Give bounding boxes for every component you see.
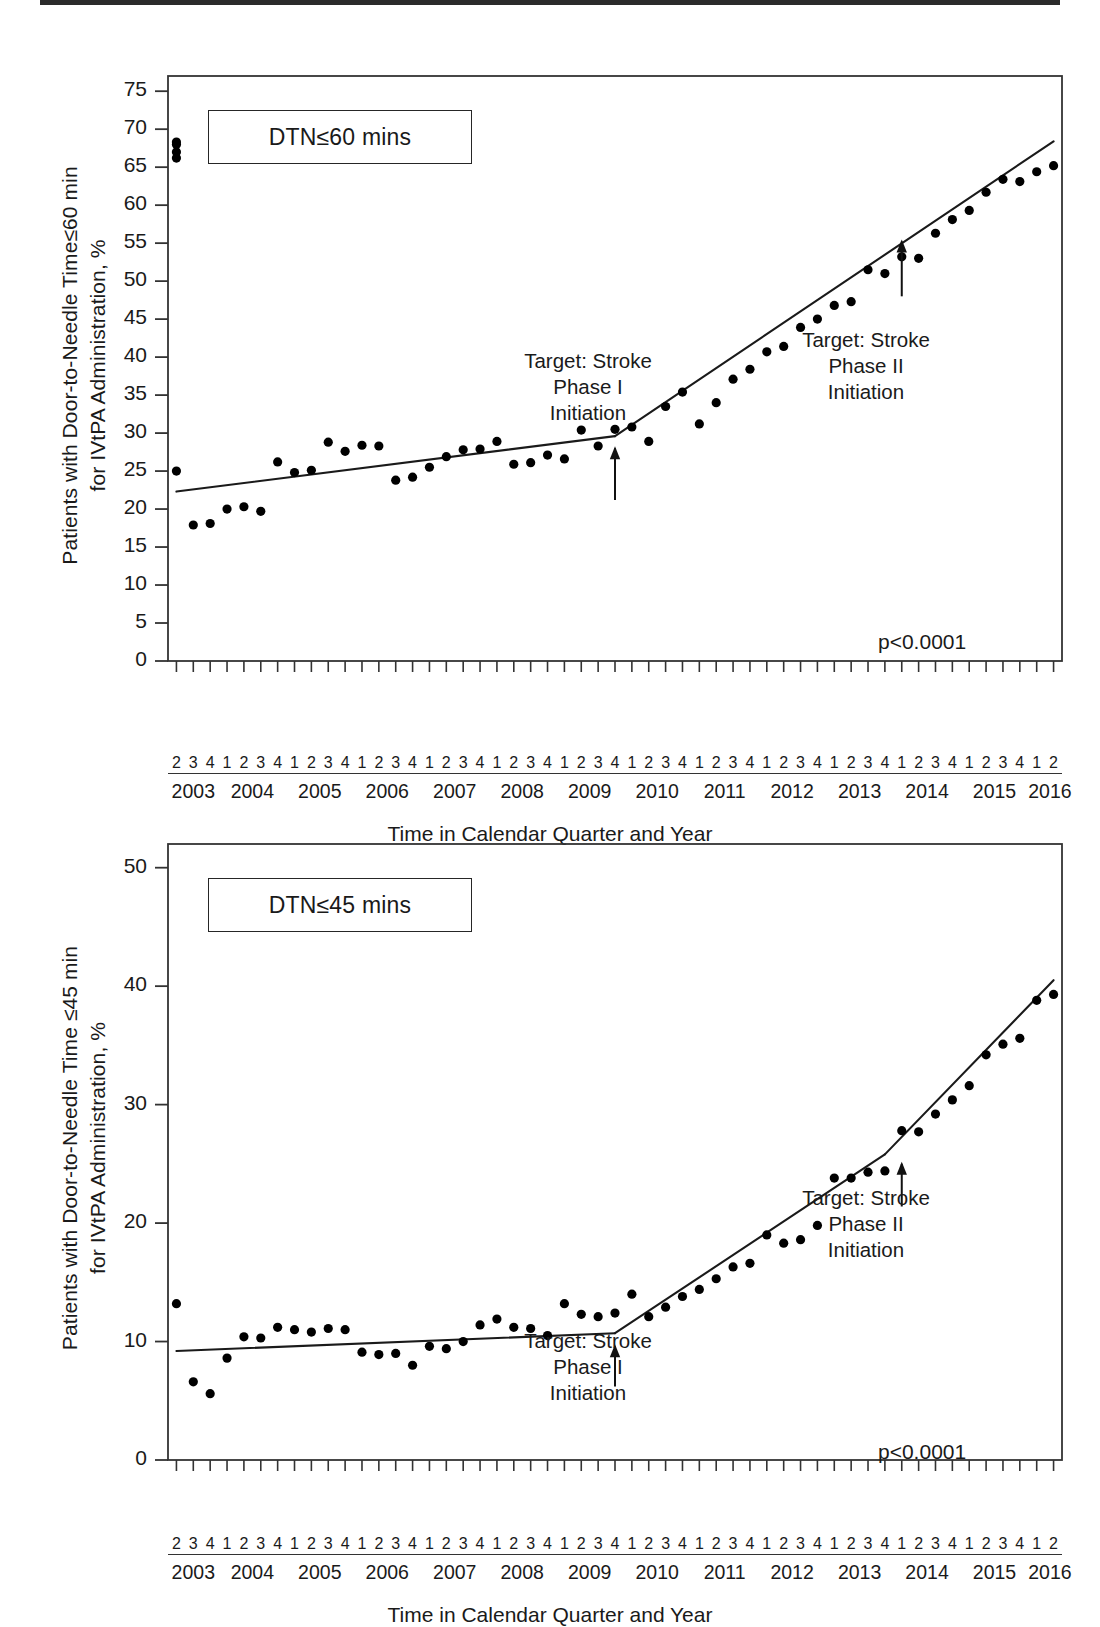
y-tick-label: 50 <box>89 854 147 878</box>
annotation-line: Initiation <box>716 379 1016 405</box>
p-value-label-top: p<0.0001 <box>878 630 966 654</box>
x-axis-quarter-label: 2 <box>168 754 185 772</box>
x-axis-quarter-label: 4 <box>876 754 893 772</box>
x-axis-quarter-label: 2 <box>168 1535 185 1553</box>
x-axis-quarter-label: 1 <box>893 1535 910 1553</box>
x-axis-quarter-label: 2 <box>640 754 657 772</box>
x-axis-year-label: 2009 <box>556 1561 623 1584</box>
x-axis-quarter-label: 3 <box>927 1535 944 1553</box>
x-axis-quarter-label: 2 <box>843 1535 860 1553</box>
x-axis-quarter-label: 1 <box>758 754 775 772</box>
x-axis-quarter-label: 3 <box>657 1535 674 1553</box>
x-axis-year-label: 2008 <box>488 780 555 803</box>
y-tick-label: 20 <box>89 1209 147 1233</box>
x-axis-quarter-label: 3 <box>252 754 269 772</box>
x-axis-quarter-group: 234 <box>168 1535 219 1555</box>
x-axis-year-label: 2009 <box>556 780 623 803</box>
x-axis-quarter-label: 1 <box>758 1535 775 1553</box>
y-tick-label: 15 <box>89 533 147 557</box>
x-axis-quarter-group: 1234 <box>691 754 758 774</box>
x-axis-year-label: 2006 <box>354 1561 421 1584</box>
x-axis-quarter-label: 2 <box>573 1535 590 1553</box>
x-axis-quarter-label: 2 <box>978 754 995 772</box>
x-axis-quarter-label: 3 <box>252 1535 269 1553</box>
annotation-line: Phase I <box>438 374 738 400</box>
x-axis-quarter-group: 1234 <box>286 754 353 774</box>
x-axis-quarter-label: 1 <box>556 754 573 772</box>
x-axis-year-label: 2014 <box>893 780 960 803</box>
x-axis-quarter-label: 3 <box>995 754 1012 772</box>
x-axis-year-label: 2016 <box>1028 1561 1062 1584</box>
y-tick-label: 35 <box>89 381 147 405</box>
x-axis-quarter-label: 1 <box>1028 754 1045 772</box>
annotation-target-stroke-phase-i: Target: StrokePhase IInitiation <box>438 1328 738 1407</box>
y-tick-label: 65 <box>89 153 147 177</box>
x-axis-quarter-group: 1234 <box>691 1535 758 1555</box>
x-axis-quarter-label: 2 <box>708 754 725 772</box>
y-tick-label: 70 <box>89 115 147 139</box>
x-axis-quarter-group: 1234 <box>961 1535 1028 1555</box>
x-axis-quarter-group: 1234 <box>961 754 1028 774</box>
x-axis-quarter-label: 3 <box>455 754 472 772</box>
x-axis-quarter-label: 1 <box>961 1535 978 1553</box>
annotation-line: Phase II <box>716 1211 1016 1237</box>
x-axis-quarter-label: 1 <box>1028 1535 1045 1553</box>
x-axis-quarter-label: 3 <box>657 754 674 772</box>
x-axis-quarter-label: 2 <box>438 754 455 772</box>
x-axis-quarter-label: 3 <box>387 754 404 772</box>
x-axis-quarter-label: 4 <box>472 1535 489 1553</box>
x-axis-quarter-label: 2 <box>303 754 320 772</box>
x-axis-quarter-label: 1 <box>421 1535 438 1553</box>
x-axis-quarter-group: 1234 <box>758 754 825 774</box>
x-axis-quarter-group: 234 <box>168 754 219 774</box>
x-axis-quarter-label: 1 <box>623 754 640 772</box>
x-axis-year-label: 2012 <box>758 1561 825 1584</box>
x-axis-quarter-label: 4 <box>944 1535 961 1553</box>
x-axis-quarter-label: 3 <box>590 754 607 772</box>
x-axis-year-label: 2012 <box>758 780 825 803</box>
x-axis-quarter-label: 1 <box>961 754 978 772</box>
x-axis-year-label: 2010 <box>623 1561 690 1584</box>
x-axis-year-label: 2013 <box>826 780 893 803</box>
y-tick-label: 60 <box>89 191 147 215</box>
y-tick-label: 10 <box>89 1328 147 1352</box>
y-tick-label: 40 <box>89 972 147 996</box>
x-axis-quarter-group: 1234 <box>893 1535 960 1555</box>
x-axis-year-label: 2015 <box>961 1561 1028 1584</box>
x-axis-title: Time in Calendar Quarter and Year <box>0 1603 1100 1627</box>
plot-stage-top: Patients with Door-to-Needle Time≤60 min… <box>0 18 1100 808</box>
x-axis-quarter-label: 3 <box>995 1535 1012 1553</box>
x-axis-year-label: 2004 <box>219 1561 286 1584</box>
panel-title-dtn-45: DTN≤45 mins <box>208 878 472 932</box>
x-axis-quarter-label: 3 <box>320 1535 337 1553</box>
panel-title-dtn-60: DTN≤60 mins <box>208 110 472 164</box>
x-axis-quarter-label: 4 <box>472 754 489 772</box>
x-axis-quarter-label: 4 <box>404 754 421 772</box>
figure-panel-dtn-60: Patients with Door-to-Needle Time≤60 min… <box>0 18 1100 808</box>
x-axis-quarter-group: 1234 <box>826 1535 893 1555</box>
x-axis-quarter-label: 3 <box>725 754 742 772</box>
x-axis-quarter-label: 3 <box>387 1535 404 1553</box>
p-value-label-bottom: p<0.0001 <box>878 1440 966 1464</box>
annotation-target-stroke-phase-ii: Target: StrokePhase IIInitiation <box>716 327 1016 406</box>
x-axis-year-label: 2016 <box>1028 780 1062 803</box>
x-axis-quarter-group: 1234 <box>826 754 893 774</box>
annotation-line: Initiation <box>438 400 738 426</box>
y-tick-label: 0 <box>89 1446 147 1470</box>
x-axis-quarter-label: 3 <box>320 754 337 772</box>
x-axis-quarter-label: 2 <box>505 754 522 772</box>
x-axis-quarter-label: 3 <box>792 1535 809 1553</box>
x-axis-quarter-label: 2 <box>1045 754 1062 772</box>
x-axis-quarter-label: 4 <box>809 1535 826 1553</box>
page-top-rule <box>40 0 1060 5</box>
y-tick-label: 55 <box>89 229 147 253</box>
x-axis-quarter-label: 2 <box>573 754 590 772</box>
x-axis-quarter-label: 1 <box>826 754 843 772</box>
x-axis-quarter-label: 4 <box>607 1535 624 1553</box>
annotation-line: Initiation <box>438 1380 738 1406</box>
x-axis-quarter-group: 1234 <box>623 754 690 774</box>
x-axis-quarter-label: 4 <box>202 1535 219 1553</box>
y-tick-label: 5 <box>89 609 147 633</box>
x-axis-year-label: 2005 <box>286 780 353 803</box>
x-axis-quarter-label: 4 <box>674 1535 691 1553</box>
